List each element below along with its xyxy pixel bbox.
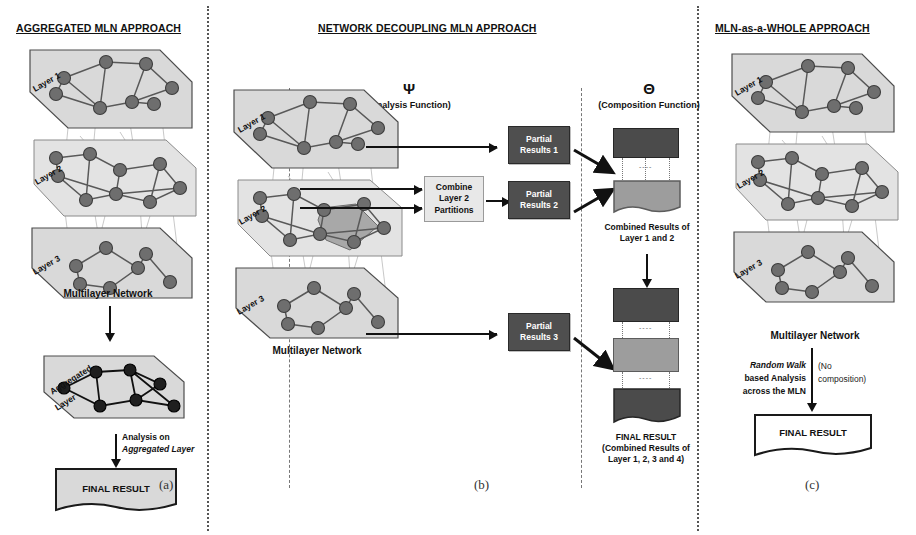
arrow-combine-to-partial2 <box>486 200 510 202</box>
panel-c-analysis-line2: based Analysis <box>722 373 806 384</box>
final-connector-2b <box>669 372 670 388</box>
panel-c-caption: (c) <box>805 477 819 493</box>
panel-c-analysis-line3: across the MLN <box>722 386 806 397</box>
final-dots-1: ---- <box>639 324 652 331</box>
panel-a-title: AGGREGATED MLN APPROACH <box>16 22 181 34</box>
panel-a-caption: (a) <box>159 477 173 493</box>
panel-a-layer-2 <box>34 140 196 216</box>
panel-a-analysis-line2: Aggregated Layer <box>122 444 194 455</box>
panel-a-arrow-to-aggregated <box>109 306 111 334</box>
combine-box-line1: Combine <box>436 182 472 194</box>
combined-result-block-bottom <box>613 180 681 216</box>
combine-layer2-partitions-box[interactable]: Combine Layer 2 Partitions <box>424 176 484 222</box>
final-connector-1a <box>622 322 623 338</box>
panel-c-title: MLN-as-a-WHOLE APPROACH <box>715 22 870 34</box>
partial-results-3-box[interactable]: Partial Results 3 <box>508 313 570 351</box>
panel-c-final-result-label: FINAL RESULT <box>752 427 874 438</box>
arrow-layer2b-to-combine <box>300 207 422 209</box>
panel-b-title: NETWORK DECOUPLING MLN APPROACH <box>318 22 537 34</box>
result-connector-3 <box>669 158 670 180</box>
final-dots-2: ---- <box>639 374 652 381</box>
panel-a-network-caption: Multilayer Network <box>38 288 178 299</box>
arrow-layer2a-to-combine <box>300 188 422 190</box>
partial-results-2-line2: Results 2 <box>520 200 558 211</box>
panel-b-layer-2 <box>238 180 402 256</box>
final-caption-line3: Layer 1, 2, 3 and 4) <box>586 454 706 465</box>
combine-box-line2: Layer 2 <box>439 193 469 205</box>
final-connector-2a <box>622 372 623 388</box>
panel-b-network-caption: Multilayer Network <box>242 345 392 356</box>
panel-b-layer-1 <box>234 90 398 168</box>
panel-c-layer-2 <box>736 144 898 220</box>
final-result-block-1 <box>613 288 679 322</box>
partial-results-1-line1: Partial <box>526 134 552 145</box>
final-connector-1b <box>669 322 670 338</box>
panel-a-arrow-to-final <box>115 434 117 460</box>
combined-caption-line2: Layer 1 and 2 <box>588 233 706 244</box>
result-connector-1 <box>622 158 623 180</box>
figure-canvas: AGGREGATED MLN APPROACH <box>0 0 916 535</box>
partial-results-1-line2: Results 1 <box>520 145 558 156</box>
partial-results-1-box[interactable]: Partial Results 1 <box>508 126 570 164</box>
panel-c-note-line2: composition) <box>818 374 900 385</box>
panel-c-note-line1: (No <box>818 361 900 372</box>
final-result-block-3 <box>613 388 681 426</box>
arrow-layer3-to-partial3 <box>366 333 497 335</box>
panel-b-caption: (b) <box>474 477 489 493</box>
partial-results-2-line1: Partial <box>526 189 552 200</box>
result-dots-1: ---- <box>639 163 652 170</box>
final-caption-line2: (Combined Results of <box>586 443 706 454</box>
combine-box-line3: Partitions <box>434 205 473 217</box>
final-result-block-2 <box>613 338 679 372</box>
arrow-combined-to-final <box>646 254 648 280</box>
panel-c-arrow-to-final <box>811 348 813 404</box>
partial-results-3-line2: Results 3 <box>520 332 558 343</box>
panel-c-layer-1 <box>732 54 894 132</box>
composition-function-label: (Composition Function) <box>589 100 709 110</box>
combined-result-block-top <box>613 128 679 158</box>
panel-a-analysis-line1: Analysis on <box>122 432 170 443</box>
composition-function-symbol: Θ <box>604 80 694 97</box>
final-caption-line1: FINAL RESULT <box>586 432 706 443</box>
arrow-layer1-to-partial1 <box>366 146 497 148</box>
partial-results-2-box[interactable]: Partial Results 2 <box>508 181 570 219</box>
partial-results-3-line1: Partial <box>526 321 552 332</box>
panel-c-analysis-line1: Random Walk <box>722 360 806 371</box>
panel-a-layer-1 <box>30 50 192 128</box>
panel-c-network-caption: Multilayer Network <box>740 330 890 341</box>
combined-caption-line1: Combined Results of <box>588 222 706 233</box>
